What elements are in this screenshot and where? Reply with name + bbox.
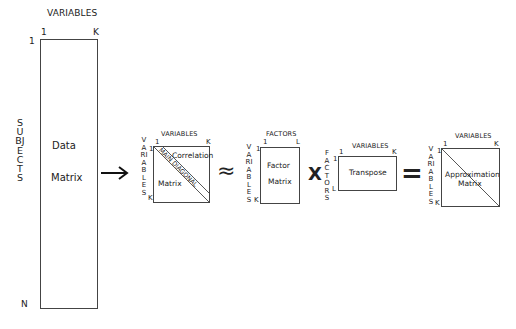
transpose-row-end: L bbox=[332, 186, 336, 193]
factor-name-2: Matrix bbox=[268, 178, 292, 186]
correlation-col-start: 1 bbox=[155, 139, 160, 146]
correlation-col-end: K bbox=[206, 139, 211, 146]
approximation-row-end: K bbox=[435, 200, 440, 207]
factor-col-start: 1 bbox=[263, 139, 268, 146]
data-matrix-col-start: 1 bbox=[41, 28, 47, 37]
correlation-top-label: VARIABLES bbox=[161, 131, 198, 138]
approx-operator: ≈ bbox=[217, 160, 235, 182]
approximation-top-label: VARIABLES bbox=[455, 133, 492, 140]
correlation-side-label: VARIABLES bbox=[140, 137, 148, 197]
correlation-row-end: K bbox=[148, 195, 153, 202]
transpose-name: Transpose bbox=[349, 169, 387, 177]
approximation-col-end: K bbox=[494, 141, 499, 148]
transpose-col-end: K bbox=[392, 149, 397, 156]
equals-operator: = bbox=[401, 160, 423, 186]
factor-top-label: FACTORS bbox=[266, 131, 296, 138]
factor-row-end: K bbox=[254, 197, 259, 204]
arrow-right-icon bbox=[100, 165, 130, 181]
transpose-top-label: VARIABLES bbox=[352, 143, 389, 150]
correlation-name-1: Correlation bbox=[172, 152, 213, 160]
factor-col-end: L bbox=[296, 139, 300, 146]
approximation-name-1: Approximation bbox=[445, 171, 500, 179]
transpose-col-start: 1 bbox=[339, 149, 344, 156]
data-matrix-side-label: SUBJECTS bbox=[15, 118, 25, 182]
transpose-side-label: FACTORS bbox=[323, 150, 331, 203]
data-matrix-row-end: N bbox=[21, 300, 28, 309]
data-matrix-name-1: Data bbox=[52, 141, 76, 151]
approximation-col-start: 1 bbox=[443, 141, 448, 148]
data-matrix-row-start: 1 bbox=[29, 37, 35, 46]
factor-matrix-box bbox=[260, 147, 300, 204]
approximation-side-label: VARIABLES bbox=[427, 146, 435, 206]
times-operator: X bbox=[308, 165, 322, 183]
transpose-row-start: 1 bbox=[333, 156, 338, 163]
approximation-name-2: Matrix bbox=[458, 180, 482, 188]
data-matrix-name-2: Matrix bbox=[51, 173, 82, 183]
data-matrix-col-end: K bbox=[93, 28, 99, 37]
factor-side-label: VARIABLES bbox=[245, 144, 253, 204]
factor-name-1: Factor bbox=[267, 162, 290, 170]
data-matrix-top-label: VARIABLES bbox=[47, 9, 97, 18]
correlation-name-2: Matrix bbox=[158, 180, 182, 188]
